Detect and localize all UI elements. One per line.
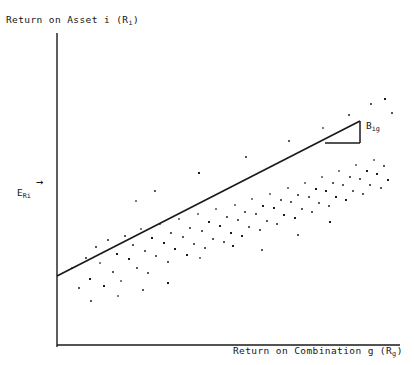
scatter-point — [338, 170, 340, 172]
scatter-point — [234, 204, 236, 206]
scatter-point — [136, 267, 138, 269]
scatter-point — [204, 247, 206, 249]
scatter-point — [95, 246, 97, 248]
scatter-point — [266, 220, 268, 222]
scatter-point — [124, 235, 126, 237]
scatter-point — [391, 112, 393, 114]
scatter-point — [362, 193, 364, 195]
scatter-point — [369, 184, 371, 186]
scatter-point — [89, 278, 91, 280]
scatter-point — [287, 187, 289, 189]
scatter-point — [301, 208, 303, 210]
scatter-point — [269, 193, 271, 195]
scatter-point — [199, 257, 201, 259]
scatter-point — [384, 98, 386, 100]
chart-figure: Return on Asset i (Ri) Return on Combina… — [0, 0, 414, 365]
scatter-point — [107, 239, 109, 241]
scatter-point — [297, 194, 299, 196]
scatter-point — [359, 178, 361, 180]
scatter-point — [255, 213, 257, 215]
scatter-point — [283, 214, 285, 216]
scatter-point — [273, 207, 275, 209]
scatter-point — [78, 287, 80, 289]
scatter-point — [241, 235, 243, 237]
scatter-point — [178, 218, 180, 220]
scatter-point — [311, 211, 313, 213]
scatter-point — [380, 187, 382, 189]
scatter-point — [167, 282, 169, 284]
scatter-point — [116, 253, 118, 255]
scatter-point — [90, 300, 92, 302]
scatter-point — [193, 243, 195, 245]
scatter-point — [167, 261, 169, 263]
scatter-point — [321, 176, 323, 178]
scatter-point — [103, 285, 105, 287]
scatter-point — [294, 217, 296, 219]
scatter-point — [376, 173, 378, 175]
scatter-point — [223, 241, 225, 243]
scatter-point — [232, 245, 234, 247]
scatter-point — [112, 271, 114, 273]
scatter-point — [128, 258, 130, 260]
scatter-point — [132, 244, 134, 246]
scatter-point — [304, 182, 306, 184]
axes — [57, 33, 400, 347]
scatter-point — [345, 199, 347, 201]
scatter-point — [135, 200, 137, 202]
scatter-point — [144, 250, 146, 252]
scatter-point — [318, 202, 320, 204]
scatter-point — [151, 237, 153, 239]
scatter-point — [155, 255, 157, 257]
scatter-point — [297, 234, 299, 236]
scatter-point — [259, 229, 261, 231]
scatter-point — [328, 205, 330, 207]
scatter-point — [383, 165, 385, 167]
scatter-point — [186, 254, 188, 256]
scatter-point — [117, 295, 119, 297]
scatter-point — [201, 230, 203, 232]
scatter-point — [373, 159, 375, 161]
scatter-point — [163, 242, 165, 244]
scatter-point — [348, 114, 350, 116]
scatter-point — [315, 188, 317, 190]
scatter-point — [355, 164, 357, 166]
scatter-point — [85, 257, 87, 259]
scatter-point — [245, 156, 247, 158]
scatter-point — [342, 184, 344, 186]
scatter-point — [140, 228, 142, 230]
scatter-point — [322, 127, 324, 129]
scatter-point — [230, 232, 232, 234]
scatter-point — [349, 176, 351, 178]
scatter-point — [366, 170, 368, 172]
scatter-point — [288, 140, 290, 142]
scatter-point — [325, 190, 327, 192]
scatter-point — [182, 236, 184, 238]
scatter-point — [142, 289, 144, 291]
scatter-point — [332, 182, 334, 184]
scatter-point — [276, 223, 278, 225]
scatter-point — [197, 213, 199, 215]
scatter-point — [261, 249, 263, 251]
plot-area — [0, 0, 414, 365]
scatter-point — [352, 190, 354, 192]
scatter-point — [174, 248, 176, 250]
scatter-point — [244, 211, 246, 213]
scatter-point — [237, 219, 239, 221]
scatter-point — [198, 172, 200, 174]
scatter-point — [147, 272, 149, 274]
scatter-point — [262, 205, 264, 207]
scatter-point — [212, 238, 214, 240]
scatter-point — [248, 226, 250, 228]
scatter-point — [280, 199, 282, 201]
scatter-point — [308, 196, 310, 198]
scatter-point — [335, 196, 337, 198]
scatter-point — [219, 225, 221, 227]
scatter-point — [226, 216, 228, 218]
characteristic-line — [57, 121, 360, 276]
scatter-point — [120, 280, 122, 282]
scatter-point — [387, 179, 389, 181]
scatter-point — [215, 208, 217, 210]
scatter-point — [370, 103, 372, 105]
scatter-point — [208, 221, 210, 223]
scatter-point — [329, 221, 331, 223]
